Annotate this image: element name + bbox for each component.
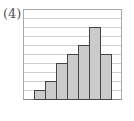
gridline <box>24 45 121 46</box>
figure-label: (4) <box>3 7 21 21</box>
bar-7 <box>100 54 112 100</box>
chart-plot-area <box>23 9 122 100</box>
gridline <box>24 36 121 37</box>
gridline <box>24 27 121 28</box>
gridline <box>24 18 121 19</box>
